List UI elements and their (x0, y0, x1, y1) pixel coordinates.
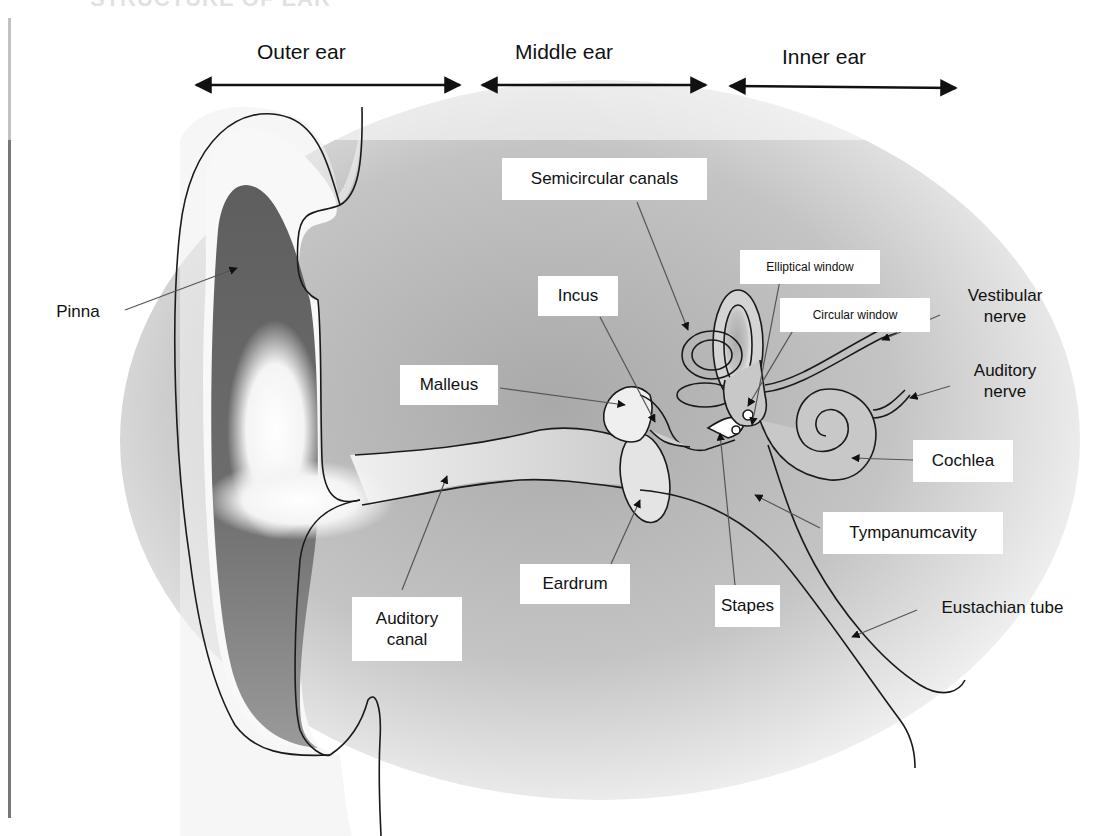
label-elliptical-window: Elliptical window (740, 250, 880, 284)
label-incus: Incus (538, 276, 618, 316)
label-stapes: Stapes (715, 585, 780, 627)
label-tympanum-cavity: Tympanumcavity (823, 512, 1003, 554)
ear-diagram: STRUCTURE OF EAR (0, 0, 1109, 836)
label-vestibular-nerve: Vestibular nerve (950, 283, 1060, 329)
label-auditory-canal: Auditory canal (352, 597, 462, 661)
label-circular-window: Circular window (780, 298, 930, 332)
label-pinna: Pinna (48, 298, 108, 326)
label-auditory-nerve: Auditory nerve (955, 358, 1055, 404)
label-eardrum: Eardrum (520, 564, 630, 604)
ear-illustration (0, 0, 1109, 836)
label-semicircular-canals: Semicircular canals (502, 158, 707, 200)
section-label-outer-ear: Outer ear (257, 40, 346, 64)
label-malleus: Malleus (400, 365, 498, 405)
label-eustachian-tube: Eustachian tube (925, 592, 1080, 624)
section-label-middle-ear: Middle ear (515, 40, 613, 64)
label-cochlea: Cochlea (913, 440, 1013, 482)
head-tissue (0, 0, 1109, 800)
section-label-inner-ear: Inner ear (782, 45, 866, 69)
